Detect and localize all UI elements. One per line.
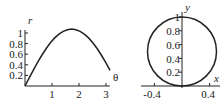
right-ytick-0.6: 0.6 xyxy=(166,39,180,51)
left-xlabel: θ xyxy=(113,71,118,83)
right-ytick-0.8: 0.8 xyxy=(166,25,180,37)
left-ylabel: r xyxy=(28,14,33,26)
right-ytick-1: 1 xyxy=(175,11,181,23)
left-xtick-3: 3 xyxy=(103,88,109,100)
right-xlabel: x xyxy=(213,72,219,84)
left-xtick-2: 2 xyxy=(76,88,82,100)
right-ytick-0.4: 0.4 xyxy=(166,53,180,65)
left-chart: 1 0.8 0.6 0.4 0.2 1 2 3 r θ xyxy=(9,14,118,100)
left-ytick-0.2: 0.2 xyxy=(9,69,23,81)
right-chart: 1 0.8 0.6 0.4 0.2 -0.4 0.4 y x xyxy=(141,1,220,100)
left-curve xyxy=(25,29,110,86)
figure: 1 0.8 0.6 0.4 0.2 1 2 3 r θ 1 0.8 xyxy=(0,0,222,103)
right-xtick-neg0.4: -0.4 xyxy=(143,88,161,100)
left-xtick-1: 1 xyxy=(49,88,55,100)
right-ylabel: y xyxy=(184,1,190,13)
right-xtick-0.4: 0.4 xyxy=(201,88,215,100)
right-ytick-0.2: 0.2 xyxy=(166,66,180,78)
